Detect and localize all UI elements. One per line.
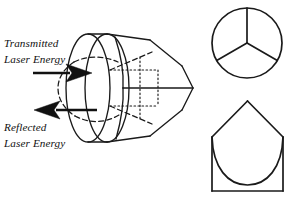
reflected-energy-callout: Reflected Laser Energy (3, 101, 97, 149)
prism-bottom-right-edge (150, 110, 182, 136)
transmitted-label-line2: Laser Energy (3, 53, 65, 65)
prism-hidden-edge-lower (110, 106, 152, 124)
reflected-label-line2: Laser Energy (3, 137, 65, 149)
reflected-label-line1: Reflected (3, 121, 47, 133)
section-view-apex-right-edge (248, 101, 284, 137)
prism-upper-apex-edge (182, 66, 193, 88)
section-view-inscribed-arc (212, 137, 283, 185)
front-view (212, 8, 282, 78)
section-view-apex-left-edge (212, 101, 248, 137)
lens-hidden-curve-bottom (75, 115, 119, 122)
prism-top-right-edge (150, 40, 182, 66)
diagram-canvas: Transmitted Laser Energy Reflected Laser… (0, 0, 292, 197)
prism-facet-curve-upper (115, 37, 123, 88)
main-perspective-view (58, 34, 193, 142)
prism-lower-apex-edge (182, 88, 193, 110)
figure-root: Transmitted Laser Energy Reflected Laser… (0, 0, 292, 197)
front-view-radius-lower-left (217, 43, 247, 61)
lens-front-face-ellipse (66, 34, 110, 142)
front-view-radius-lower-right (247, 43, 277, 61)
section-view (212, 101, 283, 191)
lens-hidden-curve-top (74, 57, 118, 62)
transmitted-label-line1: Transmitted (4, 37, 59, 49)
